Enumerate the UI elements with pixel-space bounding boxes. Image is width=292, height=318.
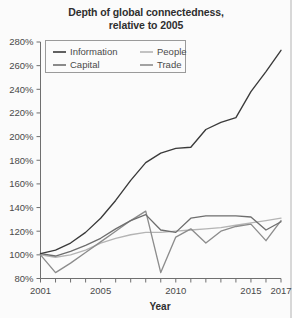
y-tick-label: 120% bbox=[9, 226, 34, 237]
y-tick-label: 260% bbox=[9, 60, 34, 71]
y-tick-label: 160% bbox=[9, 178, 34, 189]
series-line-people bbox=[41, 218, 282, 257]
x-tick-label: 2017 bbox=[270, 285, 291, 296]
y-tick-label: 140% bbox=[9, 202, 34, 213]
y-tick-label: 180% bbox=[9, 155, 34, 166]
y-tick-label: 280% bbox=[9, 36, 34, 47]
y-tick-label: 240% bbox=[9, 84, 34, 95]
legend-label-trade: Trade bbox=[157, 59, 181, 70]
x-axis-title: Year bbox=[149, 301, 170, 312]
legend-label-information: Information bbox=[70, 46, 118, 57]
x-tick-label: 2010 bbox=[165, 285, 186, 296]
x-tick-label: 2005 bbox=[90, 285, 111, 296]
x-axis-ticks: 20012005201020152017 bbox=[30, 279, 292, 296]
y-tick-label: 80% bbox=[14, 273, 34, 284]
x-tick-label: 2015 bbox=[240, 285, 261, 296]
series-line-capital bbox=[41, 215, 282, 256]
legend-label-people: People bbox=[157, 46, 187, 57]
chart-legend: InformationPeopleCapitalTrade bbox=[46, 41, 187, 73]
series-lines bbox=[41, 50, 282, 272]
chart-figure: Depth of global connectedness, relative … bbox=[0, 0, 292, 318]
x-tick-label: 2001 bbox=[30, 285, 51, 296]
legend-label-capital: Capital bbox=[70, 59, 100, 70]
y-tick-label: 100% bbox=[9, 249, 34, 260]
y-tick-label: 220% bbox=[9, 107, 34, 118]
chart-canvas: 80%100%120%140%160%180%200%220%240%260%2… bbox=[0, 0, 292, 318]
y-axis-ticks: 80%100%120%140%160%180%200%220%240%260%2… bbox=[9, 36, 40, 284]
series-line-information bbox=[41, 50, 282, 253]
series-line-trade bbox=[41, 211, 282, 272]
y-tick-label: 200% bbox=[9, 131, 34, 142]
